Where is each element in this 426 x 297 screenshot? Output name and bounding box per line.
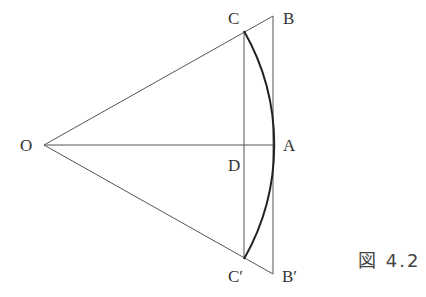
label-B-prime: B′ [282, 268, 297, 285]
segment-OB [44, 16, 273, 145]
label-O: O [20, 137, 32, 154]
figure-caption: 図 4.2 [358, 252, 420, 270]
label-A: A [283, 137, 295, 154]
label-C-prime: C′ [228, 268, 243, 285]
label-B: B [283, 10, 294, 27]
label-D: D [228, 157, 240, 174]
label-C: C [228, 10, 239, 27]
diagram-figure: O A B B′ C C′ D 図 4.2 [0, 0, 426, 297]
